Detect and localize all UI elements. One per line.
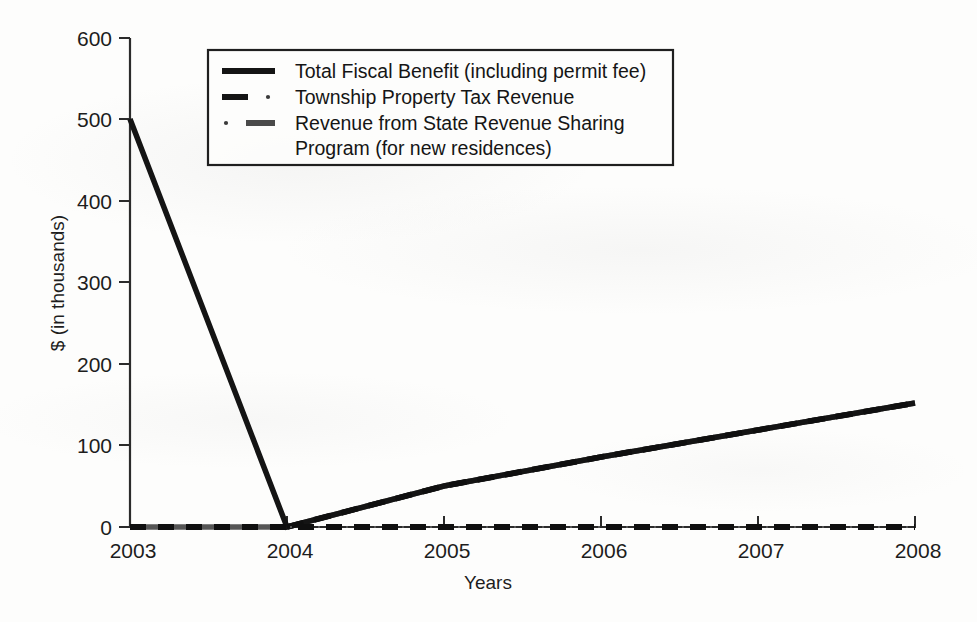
series-total-fiscal-benefit	[130, 119, 915, 527]
y-axis-title: $ (in thousands)	[47, 215, 68, 351]
chart-svg: 600 500 400 300 200 100 0 2003 2004 2005…	[0, 0, 977, 622]
x-tick-labels: 2003 2004 2005 2006 2007 2008	[110, 539, 942, 562]
y-tick-label: 100	[77, 434, 112, 457]
x-tick-label: 2006	[581, 539, 628, 562]
x-axis-title: Years	[464, 572, 512, 593]
y-tick-labels: 600 500 400 300 200 100 0	[77, 27, 112, 539]
y-tick-label: 200	[77, 353, 112, 376]
x-tick-label: 2005	[424, 539, 471, 562]
total-fiscal-benefit-line	[130, 119, 915, 527]
dot-dash-line-swatch-dot	[224, 121, 228, 125]
legend-label: Total Fiscal Benefit (including permit f…	[295, 60, 646, 82]
dash-dot-line-swatch-dot	[266, 95, 270, 99]
y-tick-label: 500	[77, 108, 112, 131]
y-axis-ticks	[119, 38, 130, 527]
x-tick-label: 2004	[267, 539, 314, 562]
fiscal-benefit-line-chart: 600 500 400 300 200 100 0 2003 2004 2005…	[0, 0, 977, 622]
state-revenue-dash-overlay	[287, 403, 915, 527]
legend-label: Revenue from State Revenue Sharing	[295, 112, 625, 134]
legend-label-continuation: Program (for new residences)	[295, 137, 552, 159]
y-tick-label: 300	[77, 271, 112, 294]
x-tick-label: 2003	[110, 539, 157, 562]
chart-legend: Total Fiscal Benefit (including permit f…	[208, 50, 673, 165]
rising-limb-dash-overlay	[287, 403, 915, 527]
x-tick-label: 2008	[895, 539, 942, 562]
y-tick-label: 600	[77, 27, 112, 50]
x-tick-label: 2007	[738, 539, 785, 562]
y-tick-label: 400	[77, 190, 112, 213]
legend-label: Township Property Tax Revenue	[295, 86, 574, 108]
y-tick-label: 0	[100, 516, 112, 539]
